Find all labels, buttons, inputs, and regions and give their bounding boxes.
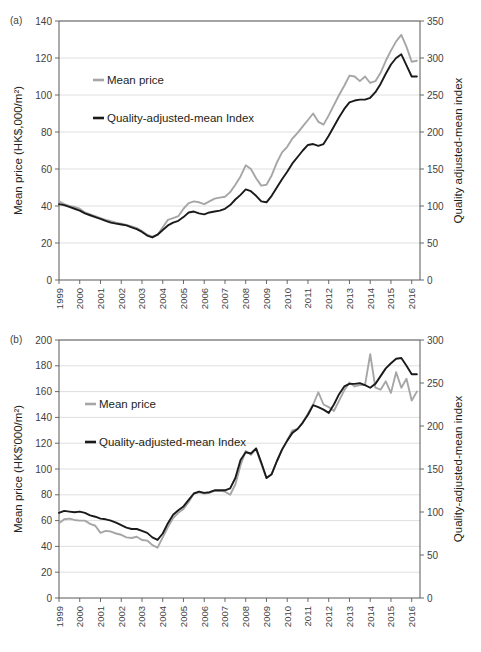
y-tick-label-right: 50: [427, 550, 439, 561]
y-tick-label-right: 100: [427, 201, 444, 212]
y-axis-title-left: Mean price (HK$,000/m²): [12, 86, 24, 215]
x-tick-label: 2008: [240, 288, 251, 309]
y-tick-label-left: 60: [41, 515, 53, 526]
y-tick-label-right: 0: [427, 275, 433, 286]
y-tick-label-left: 60: [41, 164, 53, 175]
x-tick-label: 2003: [136, 288, 147, 309]
series-line-mean-price: [59, 354, 417, 548]
x-tick-label: 2005: [178, 606, 189, 627]
y-tick-label-right: 150: [427, 464, 444, 475]
x-tick-label: 2015: [385, 606, 396, 627]
x-tick-label: 2014: [365, 288, 376, 309]
y-tick-label-left: 80: [41, 127, 53, 138]
chart-panel-a: (a)0204060801001201400501001502002503003…: [0, 0, 481, 326]
y-tick-label-left: 200: [35, 335, 52, 346]
x-tick-label: 2007: [219, 606, 230, 627]
x-tick-label: 2014: [365, 606, 376, 627]
x-tick-label: 2009: [261, 288, 272, 309]
y-axis-title-left: Mean price (HK$'000/m²): [12, 405, 24, 533]
x-tick-label: 2002: [116, 606, 127, 627]
x-tick-label: 2001: [95, 606, 106, 627]
legend-label-mean-price: Mean price: [107, 74, 164, 86]
x-tick-label: 2006: [199, 288, 210, 309]
y-tick-label-left: 40: [41, 201, 53, 212]
y-tick-label-right: 200: [427, 127, 444, 138]
y-tick-label-right: 300: [427, 53, 444, 64]
x-tick-label: 2002: [116, 288, 127, 309]
legend-label-quality-adjusted-mean-index: Quality-adjusted-mean Index: [99, 436, 246, 448]
y-tick-label-left: 160: [35, 386, 52, 397]
x-tick-label: 2004: [157, 288, 168, 309]
x-tick-label: 2009: [261, 606, 272, 627]
y-tick-label-left: 120: [35, 53, 52, 64]
x-tick-label: 2006: [199, 606, 210, 627]
x-tick-label: 2000: [74, 606, 85, 627]
y-tick-label-right: 50: [427, 238, 439, 249]
x-tick-label: 2015: [385, 288, 396, 309]
y-tick-label-right: 300: [427, 335, 444, 346]
series-line-quality-adjusted-mean-index: [59, 358, 417, 540]
y-tick-label-left: 0: [46, 275, 52, 286]
y-tick-label-left: 140: [35, 412, 52, 423]
y-axis-title-right: Quality adjusted-mean index: [452, 77, 464, 223]
x-tick-label: 1999: [54, 606, 65, 627]
y-tick-label-left: 100: [35, 90, 52, 101]
panel-label-a: (a): [10, 15, 22, 26]
y-tick-label-left: 140: [35, 16, 52, 27]
x-tick-label: 2004: [157, 606, 168, 627]
y-tick-label-left: 80: [41, 489, 53, 500]
x-tick-label: 2012: [323, 606, 334, 627]
x-tick-label: 2000: [74, 288, 85, 309]
y-tick-label-right: 250: [427, 90, 444, 101]
legend-label-mean-price: Mean price: [99, 398, 156, 410]
x-tick-label: 2010: [282, 288, 293, 309]
x-tick-label: 2011: [302, 606, 313, 626]
y-tick-label-right: 200: [427, 421, 444, 432]
chart-panel-b: (b)0204060801001201401601802000501001502…: [0, 326, 481, 652]
y-axis-title-right: Quality-adjusted-mean index: [452, 396, 464, 543]
y-tick-label-left: 0: [46, 593, 52, 604]
x-tick-label: 2005: [178, 288, 189, 309]
x-tick-label: 2003: [136, 606, 147, 627]
x-tick-label: 2001: [95, 288, 106, 309]
x-tick-label: 2013: [344, 606, 355, 627]
y-tick-label-left: 20: [41, 238, 53, 249]
y-tick-label-left: 180: [35, 360, 52, 371]
x-tick-label: 2016: [406, 606, 417, 627]
chart-a-canvas: (a)0204060801001201400501001502002503003…: [0, 0, 481, 326]
chart-b-canvas: (b)0204060801001201401601802000501001502…: [0, 326, 481, 652]
x-tick-label: 2012: [323, 288, 334, 309]
y-tick-label-right: 250: [427, 378, 444, 389]
x-tick-label: 2007: [219, 288, 230, 309]
y-tick-label-right: 100: [427, 507, 444, 518]
x-tick-label: 2008: [240, 606, 251, 627]
x-tick-label: 2016: [406, 288, 417, 309]
y-tick-label-left: 120: [35, 438, 52, 449]
x-tick-label: 2013: [344, 288, 355, 309]
x-tick-label: 2011: [302, 288, 313, 308]
x-tick-label: 2010: [282, 606, 293, 627]
y-tick-label-left: 40: [41, 541, 53, 552]
y-tick-label-right: 150: [427, 164, 444, 175]
legend-label-quality-adjusted-mean-index: Quality-adjusted-mean Index: [107, 112, 254, 124]
y-tick-label-right: 0: [427, 593, 433, 604]
x-tick-label: 1999: [54, 288, 65, 309]
y-tick-label-left: 20: [41, 567, 53, 578]
y-tick-label-right: 350: [427, 16, 444, 27]
panel-label-b: (b): [10, 334, 22, 345]
y-tick-label-left: 100: [35, 464, 52, 475]
